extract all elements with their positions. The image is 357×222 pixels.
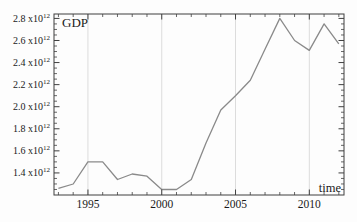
y-tick-label-1.4 x10: 1.4 x1012 <box>13 166 51 178</box>
x-tick-label-2005: 2005 <box>224 198 247 210</box>
x-tick-label-1995: 1995 <box>76 198 99 210</box>
plot-frame <box>54 14 344 195</box>
y-tick-label-1.8 x10: 1.8 x1012 <box>13 122 51 134</box>
y-axis-label-gdp: GDP <box>62 15 88 30</box>
y-tick-label-1.6 x10: 1.6 x1012 <box>13 144 51 156</box>
x-axis-label-time: time <box>319 181 342 195</box>
x-tick-label-2000: 2000 <box>150 198 173 210</box>
gdp-time-line-chart: 19952000200520101.4 x10121.6 x10121.8 x1… <box>0 0 357 222</box>
y-tick-label-2.2 x10: 2.2 x1012 <box>13 78 51 90</box>
x-tick-label-2010: 2010 <box>298 198 321 210</box>
gridlines <box>88 14 309 195</box>
axis-ticks <box>54 14 344 195</box>
y-tick-label-2.6 x10: 2.6 x1012 <box>13 34 51 46</box>
y-tick-label-2.8 x10: 2.8 x1012 <box>13 12 51 24</box>
gdp-line <box>58 18 338 189</box>
y-tick-label-2.0 x10: 2.0 x1012 <box>13 100 51 112</box>
y-tick-label-2.4 x10: 2.4 x1012 <box>13 56 51 68</box>
plot-svg: 19952000200520101.4 x10121.6 x10121.8 x1… <box>0 0 357 222</box>
